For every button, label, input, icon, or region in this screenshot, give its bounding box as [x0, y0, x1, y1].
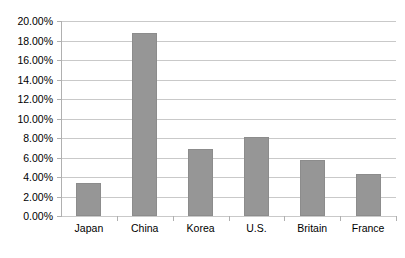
- y-axis-tick-label: 6.00%: [0, 153, 53, 164]
- bar: [356, 174, 381, 216]
- y-axis-tick-label: 0.00%: [0, 211, 53, 222]
- bar: [132, 33, 157, 216]
- y-axis-tick: [57, 60, 62, 61]
- y-axis-tick-label: 2.00%: [0, 192, 53, 203]
- y-axis-tick-labels: 0.00%2.00%4.00%6.00%8.00%10.00%12.00%14.…: [0, 0, 53, 258]
- x-axis-category-label: U.S.: [229, 223, 285, 234]
- y-axis-tick: [57, 99, 62, 100]
- x-axis-category-label: Japan: [61, 223, 117, 234]
- x-axis-tick: [396, 216, 397, 221]
- y-axis-tick: [57, 158, 62, 159]
- x-axis-category-label: France: [340, 223, 396, 234]
- x-axis-tick: [284, 216, 285, 221]
- y-axis-tick: [57, 41, 62, 42]
- y-axis-tick: [57, 197, 62, 198]
- bar-chart-figure: 0.00%2.00%4.00%6.00%8.00%10.00%12.00%14.…: [0, 0, 405, 258]
- x-axis-category-label: China: [117, 223, 173, 234]
- y-axis-tick-label: 20.00%: [0, 16, 53, 27]
- x-axis-tick: [173, 216, 174, 221]
- bar: [300, 160, 325, 216]
- y-axis-tick-label: 18.00%: [0, 36, 53, 47]
- y-axis-tick-label: 12.00%: [0, 94, 53, 105]
- x-axis-tick: [117, 216, 118, 221]
- y-axis-tick: [57, 177, 62, 178]
- y-axis-tick-label: 10.00%: [0, 114, 53, 125]
- x-axis-tick: [229, 216, 230, 221]
- x-axis-category-label: Korea: [173, 223, 229, 234]
- bar: [188, 149, 213, 216]
- y-axis-tick: [57, 216, 62, 217]
- y-axis-tick: [57, 21, 62, 22]
- y-axis-tick-label: 16.00%: [0, 55, 53, 66]
- bar: [244, 137, 269, 216]
- y-axis-tick-label: 4.00%: [0, 172, 53, 183]
- y-axis-tick: [57, 80, 62, 81]
- x-axis-category-label: Britain: [284, 223, 340, 234]
- bars-layer: [61, 21, 396, 216]
- y-axis-tick: [57, 119, 62, 120]
- y-axis-tick-label: 8.00%: [0, 133, 53, 144]
- x-axis-category-labels: JapanChinaKoreaU.S.BritainFrance: [61, 223, 396, 239]
- y-axis-tick: [57, 138, 62, 139]
- y-axis-tick-label: 14.00%: [0, 75, 53, 86]
- bar: [76, 183, 101, 216]
- x-axis-tick: [340, 216, 341, 221]
